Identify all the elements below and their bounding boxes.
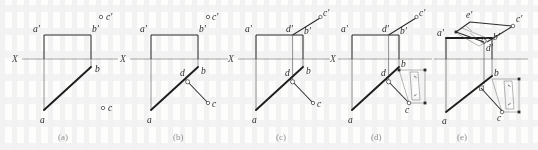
label-b-prime-e: b' xyxy=(493,32,501,42)
label-d-c: d xyxy=(285,68,290,78)
label-b-b: b xyxy=(201,66,206,76)
horizontal-line-ab-d xyxy=(352,67,399,110)
perpendicular-cd-e xyxy=(481,88,502,111)
horizontal-line-ab-e xyxy=(446,76,492,112)
aux-corner-marker-b-d xyxy=(398,69,401,72)
label-c-c: c xyxy=(317,99,322,109)
aux-rect-inner-left-e xyxy=(504,81,506,109)
label-d-prime-e: d' xyxy=(486,43,494,53)
label-d-b: d xyxy=(180,68,185,78)
label-b-prime-c: b' xyxy=(304,26,312,36)
aux-rect-left-e xyxy=(492,79,502,112)
x-axis-label-c: X xyxy=(227,54,235,64)
label-a-prime-c: a' xyxy=(245,24,253,34)
label-c-d: c xyxy=(405,105,410,115)
panel-e: e' c' a' b' d' b a c (e) xyxy=(434,10,528,142)
aux-rect-inner-left-d xyxy=(410,72,412,100)
aux-corner-marker-left-e xyxy=(455,31,458,34)
label-e-prime-e: e' xyxy=(466,10,473,20)
horizontal-line-ab-c xyxy=(256,67,303,110)
label-b-d: b xyxy=(401,59,406,69)
aux-bottom-edge-e xyxy=(456,32,484,42)
point-marker-c-a xyxy=(101,106,104,109)
aux-corner-marker-bottomright-d xyxy=(424,102,427,105)
auxiliary-rectangle-e xyxy=(492,78,520,114)
equal-measure-ticks-d xyxy=(414,76,417,96)
label-a-prime-d: a' xyxy=(341,24,349,34)
aux-corner-marker-topright-e xyxy=(518,78,521,81)
caption-panel-d: (d) xyxy=(371,132,382,142)
point-marker-c-c xyxy=(311,101,314,104)
figure-sheet: X a' b' c' b a c (a) X xyxy=(0,0,538,150)
x-axis-label-b: X xyxy=(119,54,127,64)
label-a-prime-b: a' xyxy=(140,24,148,34)
point-marker-c-prime-e xyxy=(511,24,515,28)
label-b-a: b xyxy=(95,64,100,74)
panel-b: X a' b' c' d b a c (b) xyxy=(119,12,228,142)
caption-panel-b: (b) xyxy=(173,132,184,142)
right-angle-square-d-b xyxy=(186,80,190,84)
horizontal-line-ab-a xyxy=(44,67,91,110)
aux-right-edge-e xyxy=(487,26,513,42)
label-d-d: d xyxy=(381,68,386,78)
label-b-prime-b: b' xyxy=(199,24,207,34)
equal-measure-ticks-e xyxy=(508,85,511,105)
label-a-e: a xyxy=(442,116,447,126)
panel-c: X a' d' b' c' d b a c (c) xyxy=(227,8,330,142)
caption-panel-a: (a) xyxy=(58,132,68,142)
label-c-prime-b: c' xyxy=(212,12,219,22)
label-a-prime-a: a' xyxy=(33,24,41,34)
label-c-prime-e: c' xyxy=(516,14,523,24)
point-marker-c-prime-d xyxy=(415,15,418,18)
label-a-d: a xyxy=(348,115,353,125)
horizontal-line-ab-b xyxy=(151,67,198,110)
point-marker-c-prime-b xyxy=(206,15,209,18)
label-d-prime-c: d' xyxy=(286,24,294,34)
label-b-c: b xyxy=(306,66,311,76)
aux-corner-marker-bottomright-e xyxy=(518,111,521,114)
aux-top-edge-e xyxy=(470,22,513,26)
x-axis-label-d: X xyxy=(329,54,337,64)
label-c-b: c xyxy=(212,99,217,109)
label-c-prime-a: c' xyxy=(106,12,113,22)
aux-corner-marker-topright-d xyxy=(424,69,427,72)
label-b-prime-a: b' xyxy=(92,24,100,34)
label-a-a: a xyxy=(40,115,45,125)
label-a-c: a xyxy=(252,115,257,125)
caption-panel-e: (e) xyxy=(457,132,467,142)
panel-a: X a' b' c' b a c (a) xyxy=(11,12,118,142)
label-c-prime-d: c' xyxy=(419,8,426,18)
aux-rect-inner-right-d xyxy=(418,72,420,100)
panel-d: X xyxy=(329,8,432,142)
point-marker-c-prime-a xyxy=(99,15,102,18)
label-b-e: b xyxy=(494,68,499,78)
technical-drawing-canvas: X a' b' c' b a c (a) X xyxy=(0,0,538,150)
label-a-b: a xyxy=(147,115,152,125)
label-b-prime-d: b' xyxy=(400,26,408,36)
revolved-auxiliary-view-e xyxy=(455,22,515,46)
point-marker-c-prime-c xyxy=(319,15,322,18)
label-c-a: c xyxy=(108,103,113,113)
label-d-prime-d: d' xyxy=(382,24,390,34)
right-angle-square-d-c xyxy=(291,80,295,84)
caption-panel-c: (c) xyxy=(276,132,286,142)
right-angle-square-d-d xyxy=(387,80,391,84)
label-c-prime-c: c' xyxy=(323,8,330,18)
point-marker-c-b xyxy=(206,101,209,104)
x-axis-label-a: X xyxy=(11,54,19,64)
aux-parallelogram-lower-e xyxy=(458,34,479,46)
auxiliary-rectangle-d xyxy=(398,69,427,105)
label-c-e: c xyxy=(497,113,502,123)
label-a-prime-e: a' xyxy=(437,28,445,38)
aux-rect-inner-right-e xyxy=(512,81,514,109)
